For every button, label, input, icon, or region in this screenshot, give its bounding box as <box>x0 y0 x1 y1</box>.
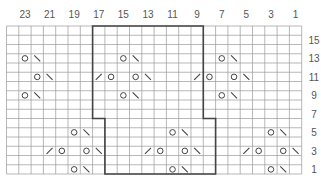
row-label: 11 <box>309 71 319 82</box>
column-label: 11 <box>167 9 177 20</box>
left-decrease-icon <box>34 92 40 98</box>
row-label: 13 <box>308 53 319 64</box>
right-decrease-icon <box>96 74 102 80</box>
row-label: 15 <box>308 34 319 45</box>
left-decrease-icon <box>243 74 249 80</box>
left-decrease-icon <box>231 55 237 61</box>
chart-grid <box>0 0 321 183</box>
yarn-over-icon <box>182 148 188 154</box>
column-label: 13 <box>142 9 153 20</box>
left-decrease-icon <box>133 92 139 98</box>
column-label: 9 <box>194 9 200 20</box>
column-label: 21 <box>44 9 55 20</box>
left-decrease-icon <box>280 129 286 135</box>
row-label: 9 <box>311 90 317 101</box>
left-decrease-icon <box>133 55 139 61</box>
column-label: 5 <box>244 9 250 20</box>
column-label: 19 <box>69 9 80 20</box>
yarn-over-icon <box>121 56 127 62</box>
column-label: 23 <box>19 9 30 20</box>
yarn-over-icon <box>256 148 262 154</box>
left-decrease-icon <box>194 148 200 154</box>
yarn-over-icon <box>121 93 127 99</box>
row-label: 5 <box>311 127 317 138</box>
left-decrease-icon <box>83 166 89 172</box>
left-decrease-icon <box>182 129 188 135</box>
yarn-over-icon <box>22 93 28 99</box>
column-label: 3 <box>268 9 274 20</box>
yarn-over-icon <box>207 74 213 80</box>
row-label: 1 <box>311 164 317 175</box>
yarn-over-icon <box>268 167 274 173</box>
right-decrease-icon <box>145 148 151 154</box>
yarn-over-icon <box>71 167 77 173</box>
yarn-over-icon <box>59 148 65 154</box>
right-decrease-icon <box>194 74 200 80</box>
right-decrease-icon <box>47 148 53 154</box>
column-label: 17 <box>93 9 104 20</box>
yarn-over-icon <box>170 167 176 173</box>
column-label: 15 <box>118 9 129 20</box>
yarn-over-icon <box>108 74 114 80</box>
left-decrease-icon <box>293 148 299 154</box>
left-decrease-icon <box>280 166 286 172</box>
column-label: 1 <box>293 9 299 20</box>
yarn-over-icon <box>268 130 274 136</box>
left-decrease-icon <box>47 74 53 80</box>
left-decrease-icon <box>96 148 102 154</box>
column-label: 7 <box>219 9 225 20</box>
yarn-over-icon <box>280 148 286 154</box>
yarn-over-icon <box>71 130 77 136</box>
left-decrease-icon <box>231 92 237 98</box>
left-decrease-icon <box>83 129 89 135</box>
yarn-over-icon <box>231 74 237 80</box>
yarn-over-icon <box>133 74 139 80</box>
yarn-over-icon <box>170 130 176 136</box>
yarn-over-icon <box>34 74 40 80</box>
left-decrease-icon <box>145 74 151 80</box>
yarn-over-icon <box>84 148 90 154</box>
left-decrease-icon <box>182 166 188 172</box>
knitting-chart: 2321191715131197531 15131197531 <box>0 0 321 183</box>
yarn-over-icon <box>157 148 163 154</box>
row-label: 3 <box>311 145 317 156</box>
left-decrease-icon <box>34 55 40 61</box>
yarn-over-icon <box>219 93 225 99</box>
yarn-over-icon <box>219 56 225 62</box>
right-decrease-icon <box>243 148 249 154</box>
row-label: 7 <box>311 108 317 119</box>
yarn-over-icon <box>22 56 28 62</box>
